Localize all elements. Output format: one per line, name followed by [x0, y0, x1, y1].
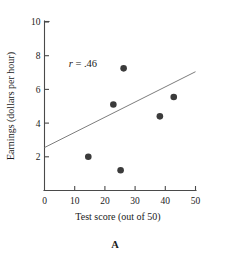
- y-tick-label: 4: [36, 119, 41, 129]
- data-point: [110, 101, 117, 108]
- panel-caption: A: [111, 239, 119, 250]
- y-axis-ticks: 246810: [31, 17, 49, 162]
- y-tick-label: 10: [31, 17, 41, 27]
- data-point: [85, 154, 92, 161]
- scatterplot-figure: 246810 01020304050 r = .46 Test score (o…: [0, 0, 229, 257]
- x-tick-label: 10: [70, 196, 80, 206]
- x-tick-label: 20: [100, 196, 110, 206]
- x-tick-label: 40: [161, 196, 171, 206]
- x-tick-label: 50: [191, 196, 201, 206]
- y-axis-title: Earnings (dollars per hour): [5, 52, 17, 160]
- data-point: [157, 113, 164, 120]
- regression-line: [45, 72, 196, 148]
- data-point: [117, 167, 124, 174]
- plot-axes: [44, 21, 196, 191]
- data-point: [120, 65, 127, 72]
- y-tick-label: 2: [36, 152, 41, 162]
- y-tick-label: 6: [36, 85, 41, 95]
- correlation-value: = .46: [73, 58, 97, 69]
- x-tick-label: 30: [130, 196, 140, 206]
- x-axis-ticks: 01020304050: [42, 186, 200, 206]
- y-tick-label: 8: [36, 51, 41, 61]
- data-point: [170, 94, 177, 101]
- data-points-group: [85, 65, 177, 174]
- x-tick-label: 0: [42, 196, 47, 206]
- correlation-annotation: r = .46: [69, 58, 97, 69]
- x-axis-title: Test score (out of 50): [75, 211, 160, 223]
- scatterplot-canvas: 246810 01020304050 r = .46 Test score (o…: [0, 0, 229, 257]
